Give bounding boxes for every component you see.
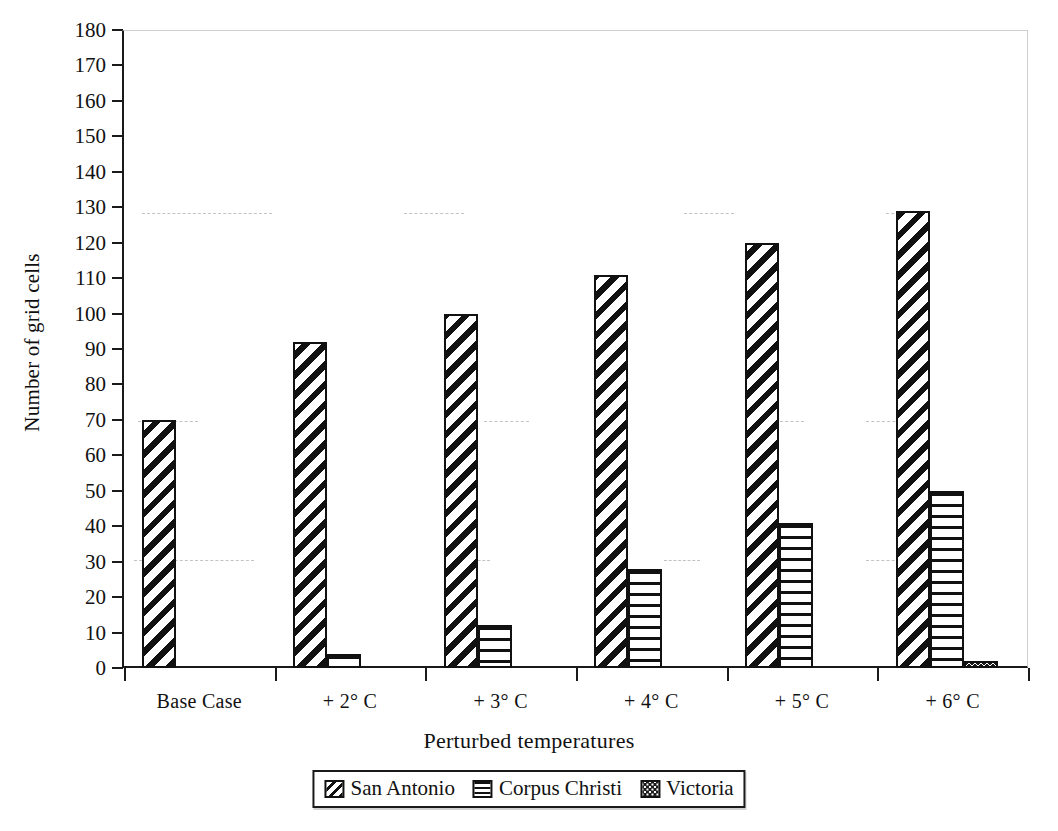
y-axis-tick-label: 80 — [85, 374, 106, 395]
bar-groups — [124, 30, 1028, 668]
y-axis-tick-label: 40 — [85, 516, 106, 537]
bar-san-antonio[interactable] — [444, 314, 478, 668]
y-axis-tick-labels: 1801701601501401301201101009080706050403… — [0, 30, 122, 668]
x-axis-tick-mark — [727, 668, 729, 681]
y-axis-tick-label: 170 — [75, 55, 107, 76]
bar-group — [727, 30, 878, 668]
x-axis-tick-mark — [1028, 668, 1030, 681]
bar-san-antonio[interactable] — [142, 420, 176, 668]
y-axis-tick-label: 10 — [85, 622, 106, 643]
bar-group — [425, 30, 576, 668]
legend-label: Corpus Christi — [499, 776, 622, 801]
x-axis-tick-mark — [275, 668, 277, 681]
chart-legend: San AntonioCorpus ChristiVictoria — [312, 770, 745, 808]
y-axis-tick-label: 90 — [85, 339, 106, 360]
bar-group — [124, 30, 275, 668]
bar-group — [275, 30, 426, 668]
x-axis-tick-label: + 2° C — [323, 690, 377, 713]
y-axis-tick-label: 110 — [75, 268, 106, 289]
y-axis-tick-label: 0 — [96, 658, 107, 679]
x-axis-tick-mark — [425, 668, 427, 681]
legend-swatch-icon — [640, 780, 660, 798]
bar-victoria[interactable] — [964, 661, 998, 668]
legend-label: Victoria — [666, 776, 734, 801]
x-axis-ticks — [124, 668, 1028, 684]
bar-san-antonio[interactable] — [293, 342, 327, 668]
x-axis-tick-mark — [576, 668, 578, 681]
x-axis-tick-label: + 3° C — [473, 690, 527, 713]
x-axis-tick-label: + 6° C — [925, 690, 979, 713]
x-axis-tick-label: + 4° C — [624, 690, 678, 713]
bar-group — [576, 30, 727, 668]
legend-swatch-icon — [324, 780, 344, 798]
x-axis-tick-label: + 5° C — [775, 690, 829, 713]
bar-san-antonio[interactable] — [745, 243, 779, 668]
y-axis-tick-label: 130 — [75, 197, 107, 218]
y-axis-tick-label: 100 — [75, 303, 107, 324]
y-axis-tick-label: 20 — [85, 587, 106, 608]
legend-item[interactable]: Victoria — [640, 776, 734, 801]
bar-san-antonio[interactable] — [594, 275, 628, 668]
x-axis-tick-mark — [877, 668, 879, 681]
bar-group — [877, 30, 1028, 668]
legend-item[interactable]: San Antonio — [324, 776, 454, 801]
y-axis-tick-label: 30 — [85, 551, 106, 572]
bar-corpus-christi[interactable] — [478, 625, 512, 668]
legend-item[interactable]: Corpus Christi — [473, 776, 622, 801]
bar-corpus-christi[interactable] — [930, 491, 964, 668]
y-axis-tick-label: 160 — [75, 90, 107, 111]
bar-chart: Number of grid cells 1801701601501401301… — [0, 0, 1058, 831]
y-axis-tick-label: 120 — [75, 232, 107, 253]
bar-corpus-christi[interactable] — [779, 523, 813, 668]
legend-label: San Antonio — [350, 776, 454, 801]
y-axis-tick-label: 180 — [75, 20, 107, 41]
bar-san-antonio[interactable] — [896, 211, 930, 668]
bar-corpus-christi[interactable] — [628, 569, 662, 668]
x-axis-tick-label: Base Case — [157, 690, 242, 713]
y-axis-tick-label: 70 — [85, 409, 106, 430]
y-axis-tick-label: 140 — [75, 161, 107, 182]
x-axis-title: Perturbed temperatures — [0, 728, 1058, 754]
y-axis-tick-label: 150 — [75, 126, 107, 147]
bar-corpus-christi[interactable] — [327, 654, 361, 668]
legend-swatch-icon — [473, 780, 493, 798]
x-axis-tick-mark — [124, 668, 126, 681]
y-axis-tick-label: 60 — [85, 445, 106, 466]
x-axis-tick-labels: Base Case+ 2° C+ 3° C+ 4° C+ 5° C+ 6° C — [124, 690, 1028, 720]
y-axis-tick-label: 50 — [85, 480, 106, 501]
